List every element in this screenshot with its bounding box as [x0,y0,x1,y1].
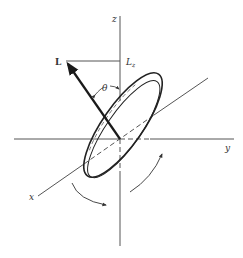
theta-label: θ [102,83,108,93]
vector-label: L [55,57,62,67]
angular-momentum-vector [68,64,120,139]
z-axis-label: z [111,14,117,24]
y-axis-label: y [224,143,231,153]
lz-label: L z [125,57,136,68]
x-axis-label: x [29,192,34,202]
angular-momentum-diagram: z y x L L z θ [0,0,243,258]
rotation-arrow-left-icon [72,183,106,205]
x-axis [38,78,208,196]
svg-text:z: z [131,61,136,68]
spinning-disk [71,63,175,188]
rotation-arrow-right-icon [130,154,162,192]
svg-text:L: L [125,57,132,67]
